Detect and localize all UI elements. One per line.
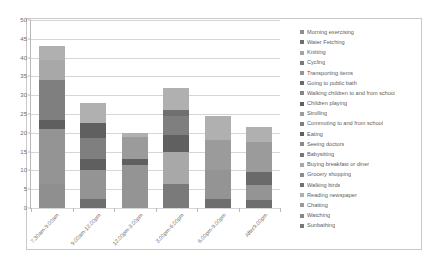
legend-swatch-icon: [300, 203, 304, 207]
legend-item[interactable]: Walking birds: [300, 181, 438, 190]
x-axis-label-text: 9.00am-12.00pm: [69, 212, 102, 247]
legend-item[interactable]: Chatting: [300, 201, 438, 210]
bar-segment[interactable]: [205, 140, 231, 170]
legend-item[interactable]: Transporting items: [300, 69, 438, 78]
legend-item[interactable]: Watching: [300, 211, 438, 220]
plot-area: 05101520253035404550: [30, 20, 280, 209]
x-axis-label-text: 3.00pm-6.00pm: [155, 212, 186, 244]
axes: 05101520253035404550: [30, 20, 280, 209]
legend-item[interactable]: Eating: [300, 130, 438, 139]
legend-swatch-icon: [300, 163, 304, 167]
bar-column[interactable]: [73, 20, 114, 208]
legend-item-label: Chatting: [307, 202, 328, 209]
legend-item[interactable]: Seeing doctors: [300, 140, 438, 149]
legend-item-label: Commuting to and from school: [307, 120, 383, 127]
bar-segment[interactable]: [80, 199, 106, 208]
legend-swatch-icon: [300, 51, 304, 55]
legend-item[interactable]: Babysitting: [300, 150, 438, 159]
stacked-bar[interactable]: [80, 103, 106, 208]
bar-segment[interactable]: [39, 120, 65, 129]
legend-item-label: Reading newspaper: [307, 192, 357, 199]
stacked-bar[interactable]: [39, 46, 65, 208]
bar-segment[interactable]: [122, 137, 148, 160]
bar-segment[interactable]: [39, 80, 65, 119]
bar-segment[interactable]: [163, 184, 189, 208]
legend-item[interactable]: Walking children to and from school: [300, 89, 438, 98]
bar-segment[interactable]: [246, 185, 272, 200]
legend-swatch-icon: [300, 183, 304, 187]
bar-segment[interactable]: [163, 116, 189, 135]
bar-segment[interactable]: [80, 170, 106, 198]
x-axis-label-text: After9.00pm: [244, 212, 269, 238]
legend-item[interactable]: Knitting: [300, 48, 438, 57]
bar-segment[interactable]: [80, 159, 106, 170]
legend-item-label: Buying breakfast or diner: [307, 161, 369, 168]
legend-swatch-icon: [300, 224, 304, 228]
bar-segment[interactable]: [39, 46, 65, 59]
x-axis-label-text: 12.00pm-3.00pm: [111, 212, 144, 247]
bar-segment[interactable]: [122, 165, 148, 208]
y-axis-tick-label: 0: [24, 205, 27, 211]
legend-swatch-icon: [300, 214, 304, 218]
y-axis-tick-label: 30: [20, 92, 27, 98]
legend-item[interactable]: Buying breakfast or diner: [300, 160, 438, 169]
bar-column[interactable]: [197, 20, 238, 208]
legend-item-label: Eating: [307, 131, 323, 138]
bar-segment[interactable]: [163, 88, 189, 111]
legend-item[interactable]: Cycling: [300, 59, 438, 68]
bar-segment[interactable]: [246, 127, 272, 142]
bar-segment[interactable]: [246, 172, 272, 185]
legend-item-label: Grocery shopping: [307, 171, 351, 178]
bar-column[interactable]: [156, 20, 197, 208]
y-axis-tick-label: 50: [20, 17, 27, 23]
bar-segment[interactable]: [39, 184, 65, 208]
bar-column[interactable]: [31, 20, 72, 208]
x-axis-tick-mark: [280, 208, 281, 212]
legend-swatch-icon: [300, 173, 304, 177]
bar-segment[interactable]: [80, 103, 106, 124]
legend-item[interactable]: Going to public bath: [300, 79, 438, 88]
bar-segment[interactable]: [163, 135, 189, 152]
stacked-bar[interactable]: [163, 88, 189, 208]
bar-column[interactable]: [239, 20, 280, 208]
legend-item-label: Knitting: [307, 49, 326, 56]
bar-segment[interactable]: [39, 129, 65, 184]
stacked-bar[interactable]: [205, 116, 231, 208]
bar-column[interactable]: [114, 20, 155, 208]
y-axis-tick-label: 45: [20, 36, 27, 42]
bar-segment[interactable]: [205, 170, 231, 198]
bar-segment[interactable]: [246, 142, 272, 172]
legend-item[interactable]: Grocery shopping: [300, 171, 438, 180]
bar-segment[interactable]: [246, 200, 272, 208]
bar-segment[interactable]: [39, 60, 65, 81]
bar-segment[interactable]: [80, 123, 106, 138]
stacked-bar[interactable]: [246, 127, 272, 208]
y-axis-tick-label: 15: [20, 149, 27, 155]
legend-item[interactable]: Water Fetching: [300, 38, 438, 47]
legend-item-label: Walking children to and from school: [307, 90, 395, 97]
legend-item-label: Water Fetching: [307, 39, 345, 46]
legend-item[interactable]: Children playing: [300, 99, 438, 108]
legend-swatch-icon: [300, 91, 304, 95]
bar-segment[interactable]: [163, 152, 189, 184]
x-axis-labels: 7.30am-9.00am9.00am-12.00pm12.00pm-3.00p…: [30, 210, 280, 270]
legend-item-label: Sunbathing: [307, 222, 335, 229]
legend-item[interactable]: Strolling: [300, 110, 438, 119]
legend-swatch-icon: [300, 102, 304, 106]
bar-segment[interactable]: [205, 116, 231, 140]
stacked-bar[interactable]: [122, 133, 148, 208]
legend-item-label: Transporting items: [307, 70, 353, 77]
y-axis-tick-label: 20: [20, 130, 27, 136]
legend-swatch-icon: [300, 193, 304, 197]
chart-screenshot: 05101520253035404550 7.30am-9.00am9.00am…: [0, 0, 447, 274]
bar-group: [31, 20, 280, 208]
bar-segment[interactable]: [205, 199, 231, 208]
legend-item[interactable]: Reading newspaper: [300, 191, 438, 200]
y-axis-tick-label: 10: [20, 167, 27, 173]
legend: Morning exercisingWater FetchingKnitting…: [300, 28, 438, 230]
legend-item[interactable]: Commuting to and from school: [300, 120, 438, 129]
legend-item[interactable]: Sunbathing: [300, 222, 438, 231]
legend-item[interactable]: Morning exercising: [300, 28, 438, 37]
legend-swatch-icon: [300, 71, 304, 75]
bar-segment[interactable]: [80, 138, 106, 159]
